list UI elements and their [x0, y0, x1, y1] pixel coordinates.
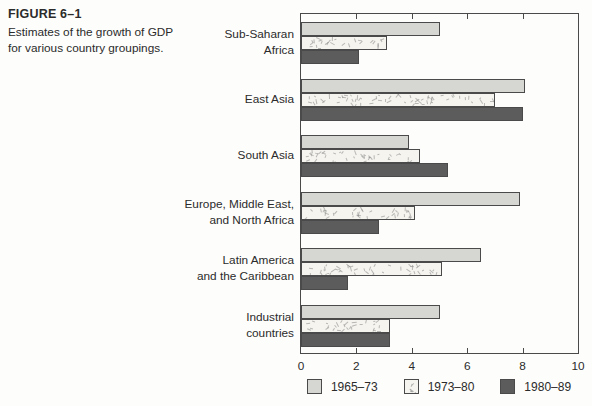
bar-light	[301, 22, 440, 36]
bar-light	[301, 305, 440, 319]
speckle-texture	[429, 272, 431, 275]
legend-label: 1965–73	[331, 380, 378, 394]
axis-tick	[412, 14, 413, 19]
axis-tick	[412, 348, 413, 353]
speckle-texture	[335, 268, 338, 270]
speckle-texture	[334, 39, 337, 41]
figure-6-1: FIGURE 6–1 Estimates of the growth of GD…	[0, 0, 592, 406]
speckle-texture	[354, 99, 356, 102]
speckle-texture	[388, 95, 391, 99]
speckle-texture	[408, 157, 409, 160]
legend-item: 1973–80	[404, 379, 475, 394]
speckle-texture	[419, 274, 422, 276]
speckle-texture	[354, 38, 356, 42]
speckle-texture	[337, 330, 341, 331]
speckle-texture	[308, 96, 309, 99]
figure-number: FIGURE 6–1	[8, 7, 238, 21]
speckle-texture	[418, 101, 422, 104]
speckle-texture	[364, 160, 367, 162]
bar-light	[301, 79, 525, 93]
speckle-texture	[365, 319, 367, 323]
speckle-texture	[374, 156, 375, 160]
speckle-texture	[415, 392, 416, 394]
speckle-texture	[330, 42, 334, 45]
speckle-texture	[414, 271, 416, 274]
speckle-texture	[325, 155, 327, 158]
speckle-texture	[406, 268, 411, 272]
category-label: Europe, Middle East,and North Africa	[64, 196, 294, 228]
speckle-texture	[326, 216, 330, 219]
speckle-texture	[386, 216, 389, 219]
category-label: Sub-SaharanAfrica	[64, 26, 294, 58]
speckle-texture	[315, 99, 317, 104]
legend-item: 1965–73	[307, 379, 378, 394]
speckle-texture	[381, 215, 385, 217]
axis-tick	[356, 14, 357, 19]
category-label-line: Industrial	[64, 309, 294, 325]
speckle-texture	[332, 152, 336, 154]
category-label-line: South Asia	[64, 147, 294, 163]
speckle-texture	[320, 41, 322, 44]
speckle-texture	[377, 331, 380, 332]
speckle-texture	[459, 96, 460, 99]
speckle-texture	[354, 150, 357, 155]
category-label: South Asia	[64, 147, 294, 163]
chart-legend: 1965–731973–801980–89	[300, 379, 578, 394]
x-axis-tick-label: 6	[452, 359, 482, 373]
speckle-texture	[426, 100, 428, 105]
speckle-texture	[352, 99, 354, 102]
category-label: East Asia	[64, 91, 294, 107]
speckle-texture	[441, 95, 444, 96]
category-label-line: countries	[64, 325, 294, 341]
speckle-texture	[369, 210, 372, 212]
speckle-texture	[316, 45, 318, 48]
speckle-texture	[404, 207, 405, 211]
speckle-texture	[354, 268, 358, 270]
speckle-texture	[314, 39, 315, 43]
speckle-texture	[397, 213, 399, 217]
speckle-texture	[403, 215, 404, 218]
speckle-texture	[378, 100, 382, 102]
speckle-texture	[309, 268, 313, 270]
legend-swatch-speckled	[404, 379, 419, 394]
speckle-texture	[306, 323, 310, 324]
speckle-texture	[365, 271, 369, 274]
speckle-texture	[352, 215, 353, 217]
speckle-texture	[400, 267, 401, 271]
speckle-texture	[307, 329, 311, 332]
axis-tick	[356, 348, 357, 353]
speckle-texture	[308, 101, 312, 103]
axis-tick	[523, 348, 524, 353]
speckle-texture	[325, 264, 327, 267]
speckle-texture	[480, 99, 483, 103]
speckle-texture	[353, 156, 355, 158]
bar-dark	[301, 107, 523, 121]
bar-dark	[301, 163, 448, 177]
speckle-texture	[388, 159, 390, 160]
legend-label: 1973–80	[428, 380, 475, 394]
speckle-texture	[329, 94, 330, 99]
axis-tick	[467, 14, 468, 19]
speckle-texture	[388, 265, 391, 267]
bar-light	[301, 192, 520, 206]
bar-light	[301, 248, 481, 262]
category-label-line: East Asia	[64, 91, 294, 107]
speckle-texture	[377, 45, 378, 49]
speckle-texture	[411, 383, 414, 386]
bar-speckled	[301, 93, 495, 107]
speckle-texture	[404, 101, 406, 103]
speckle-texture	[312, 321, 315, 323]
speckle-texture	[360, 97, 362, 99]
bar-speckled	[301, 149, 420, 163]
x-axis-tick-label: 4	[397, 359, 427, 373]
speckle-texture	[377, 154, 380, 156]
speckle-texture	[310, 46, 313, 47]
speckle-texture	[346, 98, 348, 102]
speckle-texture	[468, 96, 469, 100]
speckle-texture	[471, 101, 473, 103]
speckle-texture	[435, 272, 437, 275]
speckle-texture	[337, 102, 340, 103]
speckle-texture	[394, 214, 396, 218]
axis-tick	[523, 14, 524, 19]
speckle-texture	[310, 42, 313, 45]
